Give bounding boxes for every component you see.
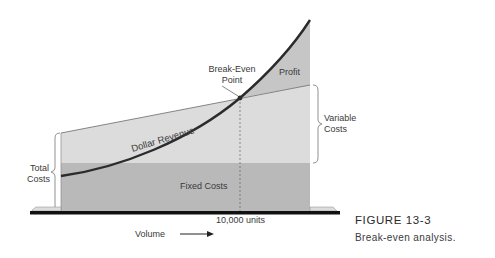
- break-even-point: [238, 96, 243, 101]
- right-floor-ledge: [310, 207, 337, 211]
- variable-costs-area: [61, 85, 310, 163]
- total-costs-label: Total Costs: [27, 163, 49, 185]
- break-even-label-line1: Break-Even: [203, 64, 261, 75]
- profit-area: [240, 20, 310, 98]
- fixed-costs-label: Fixed Costs: [180, 181, 228, 192]
- x-tick-label: 10,000 units: [216, 215, 265, 226]
- variable-costs-label-line2: Costs: [324, 124, 356, 135]
- figure-caption: Break-even analysis.: [355, 232, 456, 243]
- break-even-leader: [222, 86, 238, 96]
- x-axis-label: Volume: [135, 229, 165, 240]
- total-costs-brace: [51, 133, 60, 211]
- total-costs-label-line1: Total: [27, 163, 49, 174]
- break-even-label-line2: Point: [203, 75, 261, 86]
- figure-title: FIGURE 13-3: [355, 214, 431, 226]
- profit-label: Profit: [279, 67, 300, 78]
- volume-arrow-head: [207, 231, 214, 237]
- variable-costs-brace: [313, 85, 322, 163]
- baseline-bar: [30, 211, 340, 215]
- break-even-label: Break-Even Point: [203, 64, 261, 86]
- left-floor-ledge: [32, 207, 61, 211]
- total-costs-label-line2: Costs: [27, 174, 49, 185]
- variable-costs-label: Variable Costs: [324, 113, 356, 135]
- variable-costs-label-line1: Variable: [324, 113, 356, 124]
